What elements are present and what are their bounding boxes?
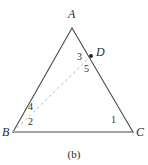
side-AC-line <box>72 28 133 132</box>
vertex-label-D: D <box>96 46 105 58</box>
cevian-BD-dashed-line <box>13 57 90 132</box>
angle-label-4: 4 <box>28 102 33 112</box>
vertex-label-C: C <box>136 126 144 138</box>
figure-caption: (b) <box>0 149 148 160</box>
angle-label-2: 2 <box>28 117 33 127</box>
geometry-figure: A B C D 1 2 3 4 5 (b) <box>0 0 148 165</box>
vertex-label-B: B <box>2 126 9 138</box>
triangle-diagram <box>0 0 148 165</box>
angle-label-3: 3 <box>77 52 82 62</box>
angle-label-5: 5 <box>84 64 89 74</box>
vertex-label-A: A <box>68 8 75 20</box>
point-D-marker <box>89 54 93 58</box>
angle-label-1: 1 <box>111 115 116 125</box>
side-AB-line <box>13 28 72 132</box>
